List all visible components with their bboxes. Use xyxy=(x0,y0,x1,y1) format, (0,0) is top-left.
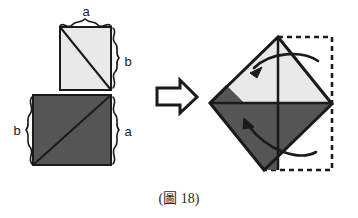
figure-container: a b b a xyxy=(0,0,358,218)
label-right-a: a xyxy=(124,124,132,139)
brace-right-a xyxy=(113,97,119,164)
brace-right-b xyxy=(113,28,119,88)
label-left-b: b xyxy=(13,123,20,138)
right-arrow-icon xyxy=(157,80,197,113)
brace-left-b xyxy=(26,97,32,164)
diamond-light-flap-left xyxy=(227,37,278,103)
figure-18-diagram: a b b a xyxy=(0,0,358,218)
label-top-a: a xyxy=(82,4,90,19)
caption-group: (圖 18) xyxy=(159,191,200,207)
right-figure-group xyxy=(210,37,332,170)
figure-caption: (圖 18) xyxy=(159,191,200,207)
transform-arrow-group xyxy=(157,80,197,113)
left-figure-group: a b b a xyxy=(13,4,132,165)
brace-top-a xyxy=(60,19,111,27)
label-right-b: b xyxy=(124,54,131,69)
